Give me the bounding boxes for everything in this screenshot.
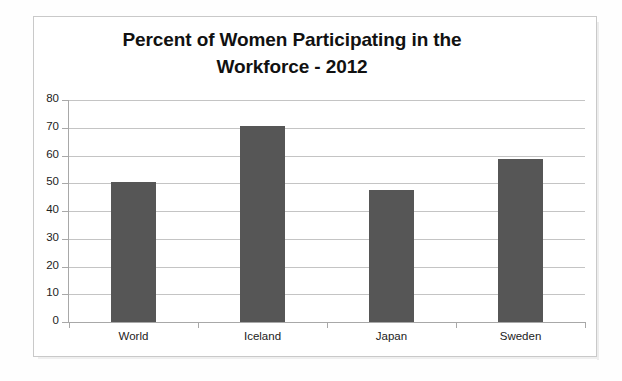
gridline <box>69 100 585 101</box>
y-axis-tick-label: 40 <box>31 203 59 215</box>
category-axis-line <box>62 322 585 323</box>
category-axis-tick <box>69 322 70 328</box>
y-axis-tick-label: 0 <box>31 314 59 326</box>
y-axis-tick <box>62 239 69 240</box>
y-axis-tick <box>62 100 69 101</box>
chart-title-line-1: Percent of Women Participating in the <box>52 26 532 53</box>
y-axis-tick <box>62 128 69 129</box>
y-axis-tick-label: 30 <box>31 231 59 243</box>
category-label-japan: Japan <box>327 330 456 342</box>
y-axis-tick <box>62 183 69 184</box>
gridline <box>69 128 585 129</box>
plot-area <box>69 100 585 322</box>
bar <box>369 190 414 322</box>
category-axis-tick <box>585 322 586 328</box>
bar <box>240 126 285 322</box>
bar <box>111 182 156 322</box>
y-axis-tick-label: 80 <box>31 92 59 104</box>
y-axis-tick <box>62 267 69 268</box>
y-axis-tick <box>62 156 69 157</box>
chart-title: Percent of Women Participating in the Wo… <box>52 26 532 80</box>
y-axis-tick-label: 60 <box>31 148 59 160</box>
y-axis-tick <box>62 211 69 212</box>
gridline <box>69 156 585 157</box>
category-axis-tick <box>327 322 328 328</box>
scan-edge-shadow-right <box>597 22 599 360</box>
category-axis-tick <box>198 322 199 328</box>
scanned-page: Percent of Women Participating in the Wo… <box>0 0 622 381</box>
bar <box>498 159 543 322</box>
category-axis-tick <box>456 322 457 328</box>
y-axis-tick <box>62 294 69 295</box>
scan-edge-shadow-bottom <box>38 357 599 359</box>
category-label-world: World <box>69 330 198 342</box>
category-label-iceland: Iceland <box>198 330 327 342</box>
chart-title-line-2: Workforce - 2012 <box>52 53 532 80</box>
y-axis-tick-label: 10 <box>31 286 59 298</box>
y-axis-tick-label: 20 <box>31 259 59 271</box>
y-axis-tick-label: 70 <box>31 120 59 132</box>
category-label-sweden: Sweden <box>456 330 585 342</box>
y-axis-tick-label: 50 <box>31 175 59 187</box>
